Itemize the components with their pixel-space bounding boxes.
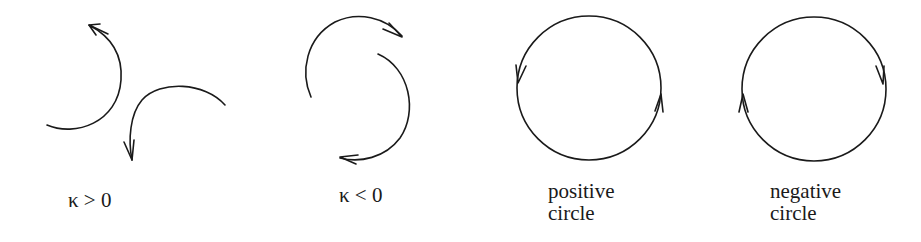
label-line-2: circle: [548, 202, 615, 224]
arrowhead-upper-icon: [89, 24, 108, 35]
label-negative-circle: negative circle: [770, 180, 841, 224]
label-kappa-negative: κ < 0: [339, 184, 382, 206]
label-line-1: positive: [548, 180, 615, 202]
circle: [742, 17, 886, 161]
figure-positive-circle: [516, 16, 663, 160]
arrowhead-upper-icon: [383, 23, 402, 37]
figure-negative-circle: [739, 17, 886, 161]
arc-lower: [340, 54, 409, 160]
figure-kappa-positive: [47, 24, 225, 160]
label-line-1: negative: [770, 180, 841, 202]
label-line-2: circle: [770, 202, 841, 224]
circle: [517, 16, 661, 160]
arrowhead-lower-icon: [124, 140, 134, 160]
arc-upper: [47, 25, 121, 129]
label-positive-circle: positive circle: [548, 180, 615, 224]
figure-kappa-negative: [306, 17, 410, 164]
label-kappa-positive: κ > 0: [68, 189, 111, 211]
arc-upper: [306, 17, 402, 97]
arrowhead-left-icon: [516, 65, 526, 83]
arc-lower: [130, 86, 225, 160]
